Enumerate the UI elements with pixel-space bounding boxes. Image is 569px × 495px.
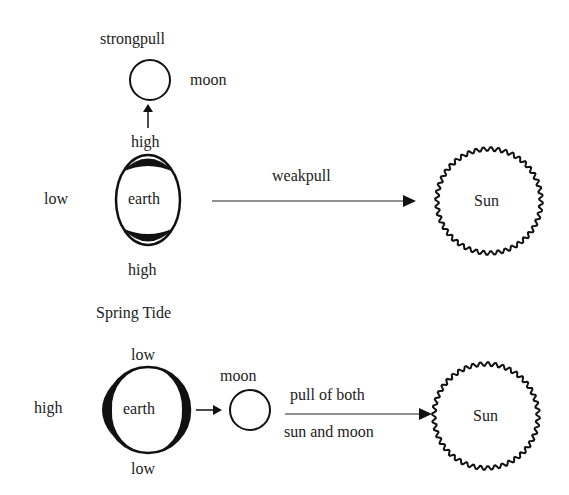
top-moon-circle (130, 60, 170, 100)
top-high-bottom-label: high (128, 262, 156, 278)
earth-moon-arrowhead-icon (213, 405, 222, 415)
top-low-left-label: low (44, 191, 68, 207)
top-high-label: high (131, 134, 159, 150)
combined-pull-arrowhead-icon (419, 408, 432, 420)
bottom-earth-label: earth (123, 401, 155, 417)
top-moon-label: moon (190, 72, 226, 88)
weak-pull-label: weakpull (272, 168, 331, 184)
bottom-moon-label: moon (220, 368, 256, 384)
bottom-high-left-label: high (34, 400, 62, 416)
bottom-moon-circle (230, 390, 270, 430)
bottom-low-top-label: low (131, 347, 155, 363)
top-earth-label: earth (128, 191, 160, 207)
strong-pull-label: strongpull (100, 31, 165, 47)
top-sun-label: Sun (474, 193, 499, 209)
bottom-low-bottom-label: low (131, 461, 155, 477)
top-moon-arrowhead-icon (143, 104, 153, 112)
sun-and-moon-label: sun and moon (284, 424, 374, 440)
bottom-sun-label: Sun (473, 408, 498, 424)
pull-of-both-label: pull of both (290, 387, 365, 403)
spring-tide-title: Spring Tide (96, 305, 171, 321)
weak-pull-arrowhead-icon (403, 195, 416, 207)
